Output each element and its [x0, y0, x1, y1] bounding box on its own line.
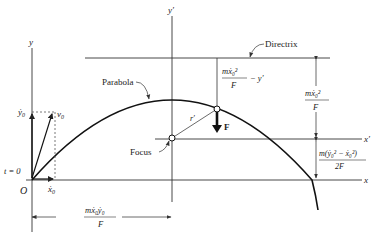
focus-label: Focus	[130, 147, 152, 157]
directrix-label: Directrix	[265, 39, 298, 49]
parabola-curve	[32, 100, 318, 210]
parabola-diagram: y y′ x x′ O Parabola Directrix Focus F r…	[0, 0, 374, 242]
ydot0-label: ẏ0	[17, 107, 25, 118]
parabola-leader	[136, 82, 149, 99]
svg-text:− y′: − y′	[250, 73, 264, 83]
force-label: F	[224, 122, 230, 132]
dim-right-upper-fraction: mẋ₀² F	[303, 86, 331, 112]
svg-text:F: F	[312, 102, 319, 112]
svg-text:mẋ₀²: mẋ₀²	[305, 88, 321, 98]
svg-text:mẋ₀²: mẋ₀²	[222, 66, 238, 76]
y-prime-axis-label: y′	[167, 5, 175, 15]
svg-text:mẋ₀ẏ₀: mẋ₀ẏ₀	[85, 205, 105, 215]
y-axis-label: y	[28, 37, 33, 47]
x-prime-axis-label: x′	[363, 134, 371, 144]
focus-point	[169, 135, 175, 141]
r-prime-label: r′	[190, 114, 195, 123]
force-arrowhead	[212, 125, 222, 133]
focus-leader	[159, 141, 169, 152]
t0-label: t = 0	[4, 166, 21, 176]
svg-text:m(ẏ₀² − ẋ₀²): m(ẏ₀² − ẋ₀²)	[319, 149, 357, 158]
svg-text:F: F	[230, 80, 237, 90]
parabola-label: Parabola	[102, 77, 134, 87]
svg-text:2F: 2F	[335, 162, 344, 171]
directrix-leader	[250, 44, 264, 57]
dim-bottom-fraction: mẋ₀ẏ₀ F	[84, 205, 116, 229]
dim-top-mid-fraction: mẋ₀² F − y′	[222, 66, 264, 90]
svg-text:F: F	[97, 219, 104, 229]
xdot0-label: ẋ0	[47, 184, 55, 195]
origin-label: O	[20, 185, 27, 196]
v0-label: v0	[57, 109, 64, 120]
particle-point	[214, 106, 220, 112]
dim-right-lower-fraction: m(ẏ₀² − ẋ₀²) 2F	[318, 145, 374, 171]
x-axis-label: x	[363, 175, 368, 185]
